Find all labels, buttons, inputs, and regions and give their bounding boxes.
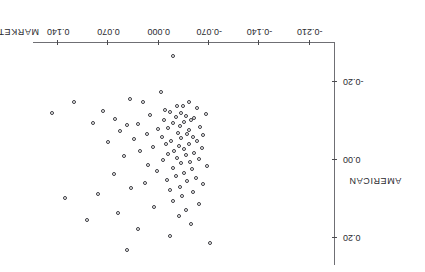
scatter-point (145, 132, 149, 136)
scatter-point (191, 135, 195, 139)
scatter-point (165, 178, 169, 182)
scatter-point (155, 169, 159, 173)
x-axis-tick-label: 0.000 (148, 27, 171, 37)
scatter-point (113, 117, 117, 121)
x-axis-line (33, 42, 335, 43)
scatter-point (122, 154, 126, 158)
scatter-point (189, 222, 193, 226)
x-axis-tick-label: -0.070 (196, 27, 222, 37)
scatter-point (166, 152, 170, 156)
scatter-point (182, 120, 186, 124)
scatter-point (168, 110, 172, 114)
y-axis-tick (332, 237, 337, 238)
scatter-point (190, 167, 194, 171)
scatter-point (112, 172, 116, 176)
scatter-point (208, 241, 212, 245)
scatter-point (146, 163, 150, 167)
x-axis-tick-label: 0.140 (47, 27, 70, 37)
scatter-point (182, 147, 186, 151)
scatter-point (191, 190, 195, 194)
scatter-point (152, 205, 156, 209)
scatter-point (188, 160, 192, 164)
scatter-point (194, 176, 198, 180)
scatter-point (118, 129, 122, 133)
scatter-point (182, 171, 186, 175)
scatter-point (50, 111, 54, 115)
chart-canvas: 0.1400.0700.000-0.070-0.140-0.210 MARKET… (0, 0, 425, 272)
scatter-point (198, 125, 202, 129)
scatter-point (132, 137, 136, 141)
scatter-point (205, 164, 209, 168)
scatter-point (184, 114, 188, 118)
x-axis-tick (158, 40, 159, 45)
scatter-point (160, 135, 164, 139)
scatter-point (187, 100, 191, 104)
scatter-point (200, 146, 204, 150)
y-axis-line (334, 43, 335, 265)
scatter-point (72, 100, 76, 104)
scatter-point (63, 196, 67, 200)
scatter-point (163, 108, 167, 112)
scatter-point (185, 179, 189, 183)
scatter-point (143, 181, 147, 185)
scatter-point (138, 150, 142, 154)
scatter-point (166, 126, 170, 130)
scatter-point (129, 186, 133, 190)
scatter-point (177, 214, 181, 218)
scatter-point (136, 122, 140, 126)
scatter-point (128, 97, 132, 101)
scatter-point (149, 113, 153, 117)
scatter-point (174, 115, 178, 119)
scatter-point (187, 142, 191, 146)
scatter-point (175, 156, 179, 160)
x-axis-tick (208, 40, 209, 45)
x-axis-tick (259, 40, 260, 45)
scatter-point (201, 133, 205, 137)
x-axis-tick-label: -0.140 (247, 27, 273, 37)
scatter-point (195, 106, 199, 110)
scatter-point (125, 248, 129, 252)
scatter-point (85, 218, 89, 222)
scatter-point (197, 157, 201, 161)
scatter-point (106, 140, 110, 144)
scatter-point (184, 208, 188, 212)
scatter-point (169, 139, 173, 143)
scatter-point (179, 111, 183, 115)
scatter-point (197, 202, 201, 206)
scatter-point (178, 185, 182, 189)
scatter-point (116, 211, 120, 215)
scatter-point (172, 149, 176, 153)
scatter-point (177, 144, 181, 148)
scatter-point (178, 124, 182, 128)
scatter-point (171, 166, 175, 170)
scatter-point (184, 153, 188, 157)
scatter-point (179, 161, 183, 165)
scatter-point (168, 234, 172, 238)
scatter-point (180, 194, 184, 198)
scatter-point (174, 174, 178, 178)
scatter-point (162, 118, 166, 122)
scatter-point (161, 158, 165, 162)
scatter-point (164, 142, 168, 146)
scatter-point (125, 123, 129, 127)
scatter-point (172, 199, 176, 203)
scatter-point (185, 132, 189, 136)
scatter-point (136, 227, 140, 231)
scatter-point (171, 54, 175, 58)
y-axis-tick (332, 81, 337, 82)
scatter-point (181, 104, 185, 108)
scatter-point (168, 188, 172, 192)
x-axis-tick (57, 40, 58, 45)
scatter-point (172, 121, 176, 125)
scatter-point (175, 104, 179, 108)
y-axis-title: AMERICAN (349, 176, 401, 186)
scatter-point (91, 121, 95, 125)
scatter-point (156, 127, 160, 131)
y-axis-tick-label: 0.20 (343, 233, 361, 243)
scatter-point (201, 182, 205, 186)
x-axis-tick-label: -0.210 (297, 27, 323, 37)
scatter-point (189, 118, 193, 122)
scatter-point (204, 112, 208, 116)
scatter-point (141, 100, 145, 104)
x-axis-title: MARKET (0, 27, 39, 37)
